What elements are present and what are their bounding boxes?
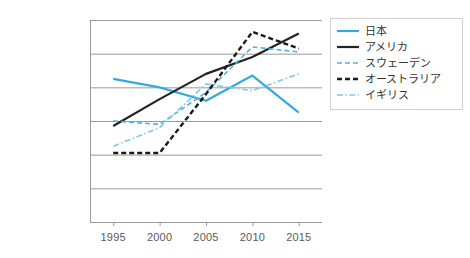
legend-item-1[interactable]: アメリカ	[336, 39, 462, 55]
legend-item-4[interactable]: イギリス	[336, 87, 462, 103]
x-axis-label: 1995	[101, 231, 126, 243]
legend-swatch-icon	[336, 73, 360, 85]
x-axis-label: 2000	[147, 231, 172, 243]
x-axis-label: 2010	[240, 231, 265, 243]
legend-label: アメリカ	[365, 41, 408, 53]
legend-label: 日本	[365, 25, 387, 37]
legend-swatch-icon	[336, 25, 360, 37]
legend-label: イギリス	[365, 89, 409, 101]
x-axis-label: 2005	[193, 231, 218, 243]
legend-label: スウェーデン	[365, 57, 431, 69]
line-chart: $60,000.00$50,000.00$40,000.00$30,000.00…	[0, 0, 470, 258]
legend-swatch-icon	[336, 57, 360, 69]
x-axis-label: 2015	[286, 231, 311, 243]
legend-item-0[interactable]: 日本	[336, 23, 462, 39]
chart-legend: 日本アメリカスウェーデンオーストラリアイギリス	[330, 18, 463, 110]
legend-label: オーストラリア	[365, 73, 441, 85]
legend-swatch-icon	[336, 41, 360, 53]
legend-item-2[interactable]: スウェーデン	[336, 55, 462, 71]
legend-swatch-icon	[336, 89, 360, 101]
legend-item-3[interactable]: オーストラリア	[336, 71, 462, 87]
